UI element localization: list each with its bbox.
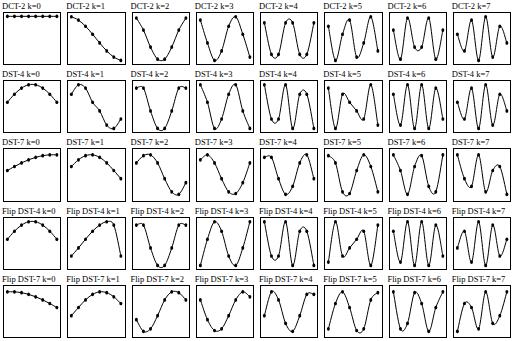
sample-point	[6, 169, 9, 173]
sample-point	[141, 223, 144, 227]
sample-point	[277, 254, 280, 258]
basis-curve	[136, 291, 186, 332]
sample-point	[484, 190, 487, 194]
subplot-axes	[389, 285, 447, 338]
sample-point	[434, 190, 437, 194]
subplot-3: DCT-2 k=3	[193, 0, 257, 68]
subplot-caption: Flip DST-4 k=1	[66, 206, 120, 216]
sample-point	[177, 223, 180, 227]
basis-curve	[329, 155, 379, 196]
sample-point	[227, 190, 230, 194]
sample-point	[312, 263, 315, 267]
sample-point	[413, 127, 416, 131]
sample-point	[341, 32, 344, 36]
sample-point	[463, 49, 466, 53]
sample-point	[441, 28, 444, 32]
subplot-axes	[67, 80, 125, 133]
subplot-axes	[453, 80, 511, 133]
sample-point	[305, 52, 308, 56]
sample-point	[406, 16, 409, 20]
subplot-16: DST-7 k=0	[0, 136, 64, 204]
sample-point	[406, 321, 409, 325]
sample-point	[141, 28, 144, 32]
sample-point	[184, 298, 187, 302]
subplot-axes	[132, 12, 190, 65]
sample-point	[377, 123, 380, 127]
subplot-29: Flip DST-4 k=5	[321, 205, 385, 273]
sample-point	[348, 246, 351, 250]
sample-point	[6, 14, 9, 18]
sample-point	[20, 86, 23, 90]
subplot-caption: DST-4 k=0	[2, 69, 40, 79]
subplot-axes	[324, 12, 382, 65]
sample-point	[206, 41, 209, 45]
sample-point	[134, 318, 137, 322]
subplot-caption: DST-4 k=2	[131, 69, 169, 79]
subplot-caption: DST-7 k=7	[452, 137, 490, 147]
subplot-axes	[67, 285, 125, 338]
sample-point	[34, 83, 37, 87]
sample-point	[220, 177, 223, 181]
subplot-caption: DST-7 k=0	[2, 137, 40, 147]
subplot-12: DST-4 k=4	[257, 68, 321, 136]
sample-point	[498, 24, 501, 28]
basis-function-grid: DCT-2 k=0DCT-2 k=1DCT-2 k=2DCT-2 k=3DCT-…	[0, 0, 514, 341]
sample-point	[413, 263, 416, 267]
sample-point	[91, 153, 94, 157]
sample-point	[41, 298, 44, 302]
sample-point	[70, 165, 73, 169]
subplot-caption: DST-7 k=4	[259, 137, 297, 147]
sample-point	[363, 153, 366, 157]
subplot-20: DST-7 k=4	[257, 136, 321, 204]
sample-point	[413, 291, 416, 295]
subplot-axes	[389, 148, 447, 201]
sample-point	[470, 86, 473, 90]
sample-point	[241, 246, 244, 250]
sample-point	[48, 229, 51, 233]
sample-point	[406, 220, 409, 224]
sample-point	[420, 220, 423, 224]
subplot-caption: Flip DST-7 k=5	[323, 274, 377, 284]
sample-point	[470, 305, 473, 309]
sample-point	[234, 192, 237, 196]
sample-point	[305, 229, 308, 233]
sample-point	[77, 18, 80, 22]
sample-point	[312, 292, 315, 296]
subplot-caption: Flip DST-7 k=4	[259, 274, 313, 284]
sample-point	[41, 223, 44, 227]
subplot-caption: DST-7 k=6	[388, 137, 426, 147]
sample-point	[377, 49, 380, 53]
sample-point	[355, 55, 358, 59]
subplot-36: Flip DST-7 k=4	[257, 273, 321, 341]
sample-point	[363, 117, 366, 121]
sample-point	[298, 52, 301, 56]
subplot-axes	[196, 80, 254, 133]
sample-point	[206, 101, 209, 105]
sample-point	[498, 314, 501, 318]
sample-point	[13, 14, 16, 18]
sample-point	[241, 290, 244, 294]
sample-point	[156, 263, 159, 267]
sample-point	[41, 14, 44, 18]
basis-curve	[264, 85, 314, 129]
subplot-caption: Flip DST-4 k=6	[388, 206, 442, 216]
sample-point	[341, 190, 344, 194]
sample-point	[170, 290, 173, 294]
sample-point	[98, 223, 101, 227]
sample-point	[120, 59, 123, 63]
sample-point	[477, 153, 480, 157]
sample-point	[91, 101, 94, 105]
sample-point	[263, 220, 266, 224]
subplot-caption: DCT-2 k=7	[452, 1, 491, 11]
subplot-31: Flip DST-4 k=7	[450, 205, 514, 273]
sample-point	[441, 290, 444, 294]
sample-point	[55, 305, 58, 309]
basis-curve	[200, 17, 250, 61]
sample-point	[48, 301, 51, 305]
sample-point	[220, 229, 223, 233]
subplot-caption: Flip DST-4 k=2	[131, 206, 185, 216]
sample-point	[498, 93, 501, 97]
sample-point	[420, 83, 423, 87]
subplot-39: Flip DST-7 k=7	[450, 273, 514, 341]
basis-curve	[136, 18, 186, 61]
